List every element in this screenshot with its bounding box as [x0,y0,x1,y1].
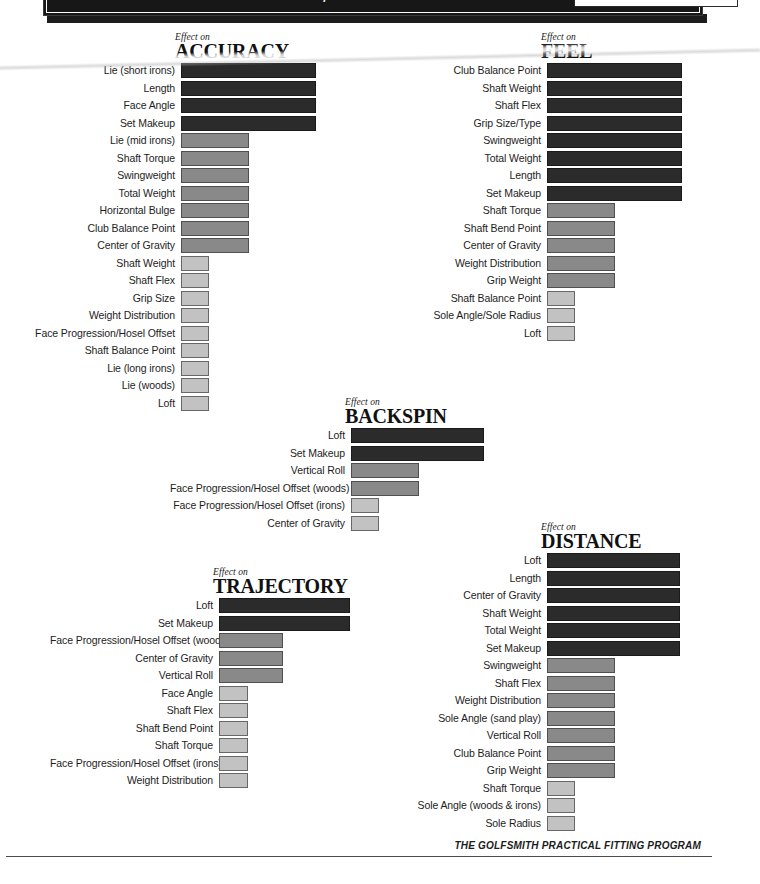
bar-row: Shaft Torque [390,202,682,220]
bar-label: Center of Gravity [390,240,547,251]
bar-low [219,738,248,753]
bar-high [181,81,316,96]
bar-label: Shaft Torque [390,205,547,216]
bar-high [219,616,350,631]
bar-label: Swingweight [390,660,547,671]
bar-medium [351,463,419,478]
bar-label: Sole Angle (sand play) [390,713,547,724]
bar-row: Center of Gravity [390,237,682,255]
bar-row: Shaft Bend Point [390,220,682,238]
bar-label: Lie (short irons) [20,65,181,76]
bar-label: Face Progression/Hosel Offset (woods) [170,483,351,494]
bar-label: Loft [390,328,547,339]
bar-label: Shaft Flex [390,678,547,689]
bar-label: Swingweight [20,170,181,181]
bar-high [547,116,682,131]
bar-low [547,308,575,323]
bar-label: Club Balance Point [390,748,547,759]
bar-row: Face Progression/Hosel Offset (irons) [50,755,350,773]
bar-row: Face Angle [20,97,316,115]
bar-row: Set Makeup [390,640,680,658]
bar-label: Club Balance Point [390,65,547,76]
bar-label: Shaft Torque [20,153,181,164]
bar-label: Loft [390,555,547,566]
bar-label: Vertical Roll [170,465,351,476]
bar-medium [181,238,249,253]
bar-row: Total Weight [390,622,680,640]
bar-label: Set Makeup [170,448,351,459]
bar-row: Vertical Roll [170,462,484,480]
bar-high [547,151,682,166]
bar-label: Sole Radius [390,818,547,829]
chart-title-distance: DISTANCE [541,531,641,552]
bar-high [547,63,682,78]
bar-label: Grip Weight [390,765,547,776]
bar-label: Shaft Bend Point [390,223,547,234]
bar-label: Shaft Balance Point [20,345,181,356]
bar-label: Weight Distribution [390,695,547,706]
chart-backspin: Effect onBACKSPINLoftSet MakeupVertical … [170,427,484,532]
bar-row: Weight Distribution [390,692,680,710]
bar-low [181,378,209,393]
bar-label: Swingweight [390,135,547,146]
bar-row: Sole Radius [390,815,680,833]
bar-low [219,756,248,771]
bar-row: Shaft Balance Point [20,342,316,360]
bar-label: Set Makeup [50,618,219,629]
bar-row: Shaft Weight [390,605,680,623]
bar-row: Set Makeup [170,445,484,463]
bar-row: Shaft Flex [390,675,680,693]
bar-low [181,256,209,271]
bar-label: Grip Size/Type [390,118,547,129]
bar-low [219,686,248,701]
bar-low [547,798,575,813]
bar-label: Lie (long irons) [20,363,181,374]
bar-label: Shaft Flex [20,275,181,286]
bar-label: Weight Distribution [50,775,219,786]
bar-high [547,641,680,656]
bar-row: Set Makeup [390,185,682,203]
bar-row: Swingweight [390,132,682,150]
bar-low [547,326,575,341]
chart-trajectory: Effect onTRAJECTORYLoftSet MakeupFace Pr… [50,597,350,790]
bar-row: Length [390,570,680,588]
bar-row: Shaft Torque [390,780,680,798]
bar-label: Center of Gravity [170,518,351,529]
bar-row: Club Balance Point [390,745,680,763]
bar-row: Club Balance Point [390,62,682,80]
bar-row: Horizontal Bulge [20,202,316,220]
bar-label: Shaft Torque [50,740,219,751]
bar-label: Grip Size [20,293,181,304]
bar-label: Face Angle [50,688,219,699]
bar-high [351,428,484,443]
bar-medium [547,658,615,673]
bar-row: Center of Gravity [50,650,350,668]
chart-title-backspin: BACKSPIN [345,406,447,427]
bar-label: Length [390,573,547,584]
bar-high [547,168,682,183]
bar-row: Weight Distribution [50,772,350,790]
bar-high [181,63,316,78]
bar-low [181,308,209,323]
bar-high [547,571,680,586]
bar-row: Loft [50,597,350,615]
bar-label: Sole Angle (woods & irons) [390,800,547,811]
bar-label: Loft [20,398,181,409]
bar-label: Face Progression/Hosel Offset (irons) [50,758,219,769]
bar-row: Length [390,167,682,185]
bar-row: Swingweight [20,167,316,185]
bar-low [181,273,209,288]
bar-label: Shaft Weight [390,608,547,619]
bar-high [547,623,680,638]
bar-high [181,98,316,113]
bar-label: Center of Gravity [390,590,547,601]
bar-high [547,606,680,621]
bar-label: Weight Distribution [390,258,547,269]
bar-high [547,133,682,148]
bar-row: Face Progression/Hosel Offset [20,325,316,343]
bar-medium [547,746,615,761]
bar-medium [547,203,615,218]
bar-label: Shaft Balance Point [390,293,547,304]
bar-low [181,326,209,341]
bar-label: Lie (woods) [20,380,181,391]
